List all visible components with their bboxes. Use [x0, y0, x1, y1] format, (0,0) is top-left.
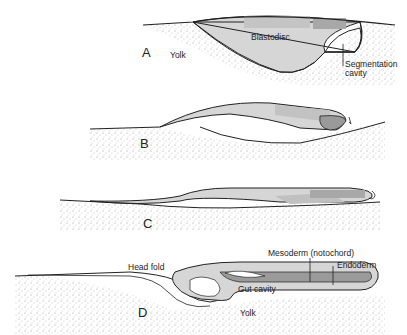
label-head-fold: Head fold [128, 262, 165, 272]
label-mesoderm: Mesoderm (notochord) [268, 248, 354, 258]
panel-letter-a: A [142, 45, 151, 60]
panel-letter-c: C [143, 216, 152, 231]
label-endoderm: Endoderm [337, 260, 376, 270]
panel-d: D Head fold Mesoderm (notochord) Endoder… [15, 248, 385, 335]
panel-c: C [60, 188, 380, 231]
label-cavity: cavity [345, 68, 367, 78]
panel-a: A Yolk Blastodisc Segmentation cavity [142, 16, 398, 85]
panel-b: B [90, 103, 385, 160]
label-gut-cavity: Gut cavity [238, 284, 277, 294]
panel-letter-b: B [140, 136, 149, 151]
panel-letter-d: D [138, 305, 147, 320]
embryo-diagram: A Yolk Blastodisc Segmentation cavity B … [0, 0, 407, 335]
label-yolk-d: Yolk [240, 308, 257, 318]
label-blastodisc: Blastodisc [251, 32, 290, 42]
label-yolk-a: Yolk [170, 50, 187, 60]
